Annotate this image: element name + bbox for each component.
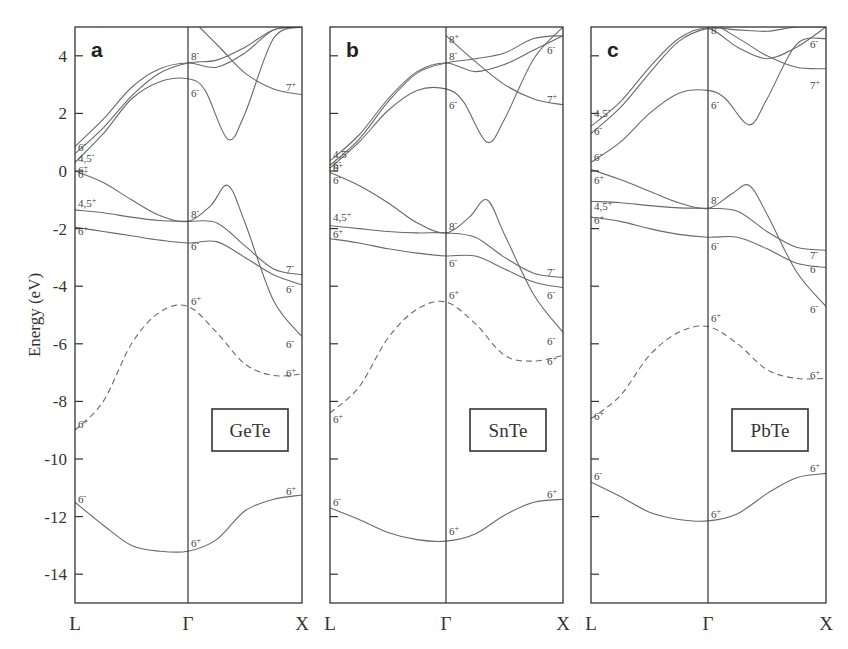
k-label-L: L: [324, 613, 336, 634]
symmetry-label: 6+: [78, 224, 89, 237]
symmetry-label: 6-: [711, 98, 720, 111]
band-structure-figure: Energy (eV) 420-2-4-6-8-10-12-14 aGeTe6-…: [0, 0, 848, 649]
band-curve: [446, 36, 563, 105]
symmetry-label: 6-: [286, 282, 295, 295]
symmetry-label: 6-: [594, 124, 603, 137]
symmetry-label: 4,5-: [333, 147, 350, 160]
panel-a: aGeTe6-6+6+6+6+6-6+6+4,5+6+6+4,5-6-8-6-8…: [69, 27, 309, 634]
symmetry-label: 4,5+: [333, 210, 352, 223]
symmetry-label: 8-: [191, 49, 200, 62]
symmetry-label: 7-: [547, 265, 556, 278]
k-label-X: X: [295, 613, 309, 634]
symmetry-label: 6+: [547, 354, 558, 367]
symmetry-label: 6-: [333, 173, 342, 186]
symmetry-label: 6+: [191, 294, 202, 307]
symmetry-label: 7-: [286, 262, 295, 275]
material-name: PbTe: [751, 420, 790, 441]
panel-letter: b: [346, 38, 359, 61]
y-axis-label: Energy (eV): [25, 273, 44, 357]
symmetry-label: 6-: [449, 256, 458, 269]
y-tick-label: -6: [53, 335, 67, 354]
panels: aGeTe6-6+6+6+6+6-6+6+4,5+6+6+4,5-6-8-6-8…: [69, 23, 833, 634]
symmetry-label: 8-: [711, 23, 720, 36]
symmetry-label: 6+: [594, 173, 605, 186]
symmetry-label: 8-: [449, 219, 458, 232]
symmetry-label: 4,5+: [594, 199, 613, 212]
symmetry-label: 6-: [286, 337, 295, 350]
symmetry-label: 6+: [711, 311, 722, 324]
symmetry-label: 6+: [547, 487, 558, 500]
symmetry-label: 6-: [594, 469, 603, 482]
y-tick-label: -8: [53, 392, 67, 411]
symmetry-label: 4,5-: [78, 151, 95, 164]
symmetry-label: 7+: [547, 92, 558, 105]
symmetry-label: 6+: [333, 412, 344, 425]
y-tick-label: -12: [44, 508, 67, 527]
symmetry-label: 6+: [286, 484, 297, 497]
y-tick-label: -2: [53, 220, 67, 239]
symmetry-label: 4,5-: [594, 106, 611, 119]
symmetry-label: 6+: [449, 524, 460, 537]
symmetry-label: 6+: [333, 227, 344, 240]
k-label-gamma: Γ: [183, 613, 194, 634]
k-label-gamma: Γ: [441, 613, 452, 634]
symmetry-label: 6-: [191, 239, 200, 252]
symmetry-label: 6-: [547, 43, 556, 56]
y-tick-label: 0: [59, 162, 68, 181]
k-label-L: L: [585, 613, 597, 634]
k-label-L: L: [69, 613, 81, 634]
symmetry-label: 6-: [810, 262, 819, 275]
symmetry-label: 6-: [711, 239, 720, 252]
symmetry-label: 4,5+: [78, 196, 97, 209]
panel-b: bSnTe6-6+6+6+6+6-6+6+4,5+6-6+6-4,5-8+8-6…: [324, 27, 570, 634]
symmetry-label: 6+: [191, 536, 202, 549]
symmetry-label: 6+: [78, 417, 89, 430]
symmetry-label: 6-: [333, 495, 342, 508]
symmetry-label: 6-: [594, 150, 603, 163]
k-label-X: X: [556, 613, 570, 634]
y-tick-labels: 420-2-4-6-8-10-12-14: [44, 47, 67, 584]
material-name: SnTe: [489, 420, 528, 441]
symmetry-label: 6-: [810, 37, 819, 50]
y-tick-label: 4: [59, 47, 68, 66]
symmetry-label: 6-: [78, 140, 87, 153]
k-label-gamma: Γ: [703, 613, 714, 634]
symmetry-label: 6+: [810, 368, 821, 381]
symmetry-label: 6+: [594, 213, 605, 226]
symmetry-label: 6+: [286, 366, 297, 379]
symmetry-label: 7+: [286, 80, 297, 93]
symmetry-label: 6+: [711, 507, 722, 520]
symmetry-label: 8+: [449, 32, 460, 45]
symmetry-label: 7+: [810, 78, 821, 91]
material-name: GeTe: [230, 420, 271, 441]
symmetry-label: 6+: [594, 409, 605, 422]
panel-c: cPbTe6-6+6+6+6+6-6+6+4,5+6+6-6-4,5-8-6-8…: [585, 23, 833, 634]
symmetry-label: 6-: [78, 492, 87, 505]
symmetry-label: 6+: [810, 461, 821, 474]
symmetry-label: 8-: [191, 207, 200, 220]
symmetry-label: 8-: [449, 49, 458, 62]
y-tick-label: -10: [44, 450, 67, 469]
y-tick-label: -4: [53, 277, 68, 296]
symmetry-label: 6-: [449, 98, 458, 111]
y-tick-label: -14: [44, 565, 67, 584]
symmetry-label: 6+: [449, 288, 460, 301]
y-tick-label: 2: [59, 104, 68, 123]
k-label-X: X: [819, 613, 833, 634]
symmetry-label: 6-: [191, 86, 200, 99]
symmetry-label: 7-: [810, 248, 819, 261]
symmetry-label: 6-: [547, 288, 556, 301]
panel-letter: a: [91, 38, 103, 61]
symmetry-label: 6-: [547, 334, 556, 347]
symmetry-label: 6-: [810, 302, 819, 315]
panel-letter: c: [607, 38, 619, 61]
